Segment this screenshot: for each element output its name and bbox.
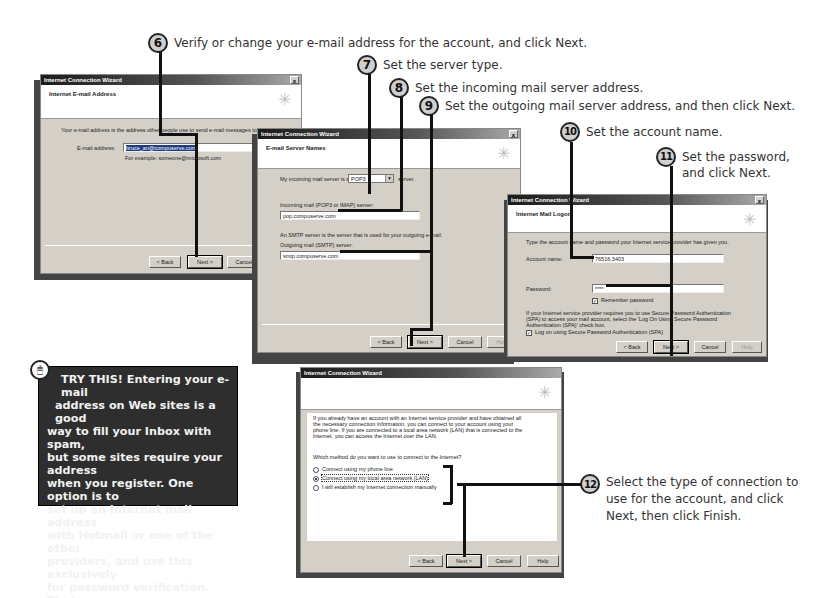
- page-title: Internet Mail Logon: [516, 211, 571, 217]
- connector-line: [570, 142, 573, 258]
- connector-line: [410, 328, 413, 346]
- remember-password-checkbox[interactable]: ✓Remember password: [592, 297, 653, 304]
- step-number-badge: 11: [656, 147, 676, 167]
- connector-line: [457, 483, 581, 486]
- connector-line: [430, 115, 433, 330]
- dialog-connection-type: Internet Connection Wizard ✳ If you alre…: [300, 367, 562, 573]
- wizard-wand-icon: ✳: [533, 382, 555, 404]
- titlebar[interactable]: Internet Connection Wizard x: [508, 195, 766, 205]
- titlebar[interactable]: Internet Connection Wizard x: [258, 129, 520, 139]
- connector-line: [195, 133, 198, 257]
- connector-line: [443, 502, 452, 505]
- callout-text: Set the account name.: [586, 122, 723, 140]
- outgoing-label: Outgoing mail (SMTP) server:: [280, 242, 353, 248]
- connector-line: [338, 209, 402, 212]
- callout-10: 10 Set the account name.: [560, 122, 723, 142]
- callout-11: 11 Set the password, and click Next.: [656, 147, 790, 181]
- radio-manual[interactable]: I will establish my Internet connection …: [313, 484, 437, 491]
- callout-text: Set the password, and click Next.: [682, 147, 790, 181]
- radio-button[interactable]: [313, 467, 319, 473]
- server-type-dropdown[interactable]: POP3 ▼: [348, 174, 394, 183]
- dialog-mail-logon: Internet Connection Wizard x Internet Ma…: [507, 194, 767, 357]
- close-button[interactable]: x: [290, 76, 299, 84]
- checkbox-checked-icon[interactable]: ✓: [592, 298, 598, 304]
- titlebar[interactable]: Internet Connection Wizard: [301, 368, 561, 378]
- callout-text: Verify or change your e-mail address for…: [174, 33, 587, 51]
- radio-button-selected[interactable]: [313, 476, 319, 482]
- dialog-server-names: Internet Connection Wizard x E-mail Serv…: [257, 128, 521, 353]
- back-button[interactable]: < Back: [370, 336, 402, 348]
- step-number-badge: 7: [357, 55, 377, 75]
- connector-line: [443, 465, 452, 468]
- try-this-tip: TRY THIS! Entering your e-mail address o…: [38, 366, 238, 506]
- back-button[interactable]: < Back: [149, 256, 181, 268]
- callout-12: 12 Select the type of connection to use …: [580, 474, 798, 525]
- example-text: For example: someone@microsoft.com: [125, 155, 221, 161]
- connector-line: [368, 74, 371, 194]
- connector-line: [606, 284, 672, 287]
- back-button[interactable]: < Back: [616, 341, 648, 353]
- help-button[interactable]: Help: [527, 555, 559, 567]
- email-field[interactable]: bruce_an@compuserve.com: [123, 143, 253, 152]
- radio-lan[interactable]: Connect using my local area network (LAN…: [313, 475, 428, 482]
- page-title: Internet E-mail Address: [49, 91, 116, 97]
- wizard-header: ✳: [301, 378, 561, 410]
- wizard-header: Internet Mail Logon ✳: [508, 205, 766, 233]
- wizard-header: E-mail Server Names ✳: [258, 139, 520, 169]
- step-number-badge: 12: [580, 474, 600, 494]
- help-button[interactable]: Help: [732, 341, 762, 353]
- email-label: E-mail address:: [77, 145, 115, 151]
- chevron-down-icon[interactable]: ▼: [385, 175, 393, 182]
- wizard-wand-icon: ✳: [273, 89, 295, 111]
- callout-text: Set the server type.: [383, 55, 502, 73]
- callout-6: 6 Verify or change your e-mail address f…: [148, 33, 587, 53]
- checkbox-checked-icon[interactable]: ✓: [526, 330, 532, 336]
- step-number-badge: 8: [389, 78, 409, 98]
- back-button[interactable]: < Back: [409, 555, 443, 567]
- spa-note-line: Authentication (SPA)' check box.: [526, 322, 606, 328]
- radio-button[interactable]: [313, 485, 319, 491]
- step-number-badge: 6: [148, 33, 168, 53]
- next-button[interactable]: Next >: [188, 256, 222, 268]
- wizard-wand-icon: ✳: [738, 209, 760, 231]
- callout-7: 7 Set the server type.: [357, 55, 502, 75]
- close-button[interactable]: x: [509, 130, 518, 138]
- intro-line: Internet, you can access the Internet ov…: [313, 433, 437, 439]
- divider: [262, 324, 516, 325]
- wizard-header: Internet E-mail Address ✳: [41, 85, 301, 119]
- cancel-button[interactable]: Cancel: [694, 341, 726, 353]
- step-number-badge: 9: [419, 96, 439, 116]
- step-number-badge: 10: [560, 122, 580, 142]
- wizard-wand-icon: ✳: [492, 143, 514, 165]
- account-label: Account name:: [526, 256, 563, 262]
- server-type-prefix: My incoming mail server is a: [280, 176, 349, 182]
- password-label: Password:: [526, 286, 552, 292]
- incoming-label: Incoming mail (POP3 or IMAP) server:: [280, 202, 374, 208]
- connector-line: [570, 256, 594, 259]
- description: Type the account name and password your …: [526, 239, 729, 245]
- smtp-note: An SMTP server is the server that is use…: [280, 232, 442, 238]
- tip-heading: TRY THIS!: [61, 373, 123, 386]
- callout-8: 8 Set the incoming mail server address.: [389, 78, 643, 98]
- next-button[interactable]: Next >: [408, 336, 442, 348]
- incoming-server-input[interactable]: pop.compuserve.com: [280, 211, 420, 220]
- callout-text: Set the outgoing mail server address, an…: [445, 96, 795, 114]
- cancel-button[interactable]: Cancel: [487, 555, 521, 567]
- cancel-button[interactable]: Cancel: [448, 336, 482, 348]
- radio-phone-line[interactable]: Connect using my phone line: [313, 466, 393, 473]
- close-button[interactable]: x: [755, 196, 764, 204]
- titlebar[interactable]: Internet Connection Wizard x: [41, 75, 301, 85]
- connector-line: [450, 465, 453, 504]
- connector-line: [400, 97, 403, 211]
- spa-checkbox[interactable]: ✓Log on using Secure Password Authentica…: [526, 329, 663, 336]
- callout-text: Select the type of connection to use for…: [606, 474, 798, 525]
- account-name-input[interactable]: 76516,3403: [592, 254, 724, 263]
- page-title: E-mail Server Names: [266, 145, 326, 151]
- connector-line: [159, 52, 162, 135]
- connector-line: [410, 328, 433, 331]
- connector-line: [340, 250, 432, 253]
- callout-text: Set the incoming mail server address.: [415, 78, 643, 96]
- connector-line: [463, 483, 466, 557]
- connector-line: [670, 166, 673, 356]
- question-text: Which method do you want to use to conne…: [313, 454, 461, 460]
